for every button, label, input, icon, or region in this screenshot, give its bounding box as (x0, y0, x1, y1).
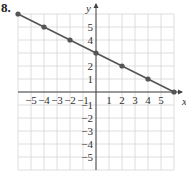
y-axis-arrow-icon (94, 3, 99, 8)
y-tick-label: −3 (81, 125, 93, 137)
x-tick-label: 1 (106, 94, 112, 106)
y-tick-label: −5 (81, 151, 93, 163)
data-point (171, 89, 176, 94)
x-axis-label: x (181, 95, 186, 107)
data-point (15, 11, 20, 16)
y-tick-label: 5 (88, 21, 94, 33)
data-point (41, 24, 46, 29)
y-tick-label: −4 (81, 138, 93, 150)
data-point (93, 50, 98, 55)
x-tick-label: −2 (64, 94, 76, 106)
x-tick-label: 4 (145, 94, 151, 106)
coordinate-plane: xy−5−4−3−2−1123455421−1−2−3−4−5 (0, 0, 186, 182)
y-tick-label: −2 (81, 112, 93, 124)
x-tick-label: 2 (119, 94, 125, 106)
y-tick-label: 4 (88, 34, 94, 46)
data-point (119, 63, 124, 68)
x-tick-label: −3 (51, 94, 63, 106)
data-point (145, 76, 150, 81)
x-tick-label: −5 (25, 94, 37, 106)
y-tick-label: 1 (88, 73, 94, 85)
x-tick-label: 5 (158, 94, 164, 106)
x-axis-arrow-icon (178, 90, 183, 95)
y-axis-label: y (85, 2, 91, 14)
y-tick-label: −1 (81, 99, 93, 111)
x-tick-label: 3 (132, 94, 138, 106)
x-tick-label: −4 (38, 94, 50, 106)
y-tick-label: 2 (88, 60, 94, 72)
data-point (67, 37, 72, 42)
